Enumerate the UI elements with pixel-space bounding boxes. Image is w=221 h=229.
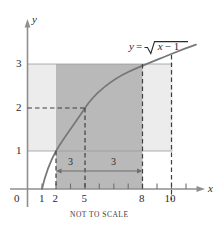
segment-label-left-3: 3 bbox=[68, 157, 73, 167]
segment-label-right-3: 3 bbox=[111, 157, 116, 167]
x-tick-label-0: 0 bbox=[14, 193, 20, 204]
equation-equals: = bbox=[134, 40, 144, 52]
x-axis-arrowhead bbox=[197, 186, 206, 192]
x-tick-label-10: 10 bbox=[165, 193, 176, 204]
figure-caption: NOT TO SCALE bbox=[70, 211, 129, 219]
equation-minus-one: − 1 bbox=[163, 40, 179, 52]
y-axis-arrowhead bbox=[25, 19, 31, 28]
figure-graph-sqrt: y x 3 2 1 0 1 2 5 8 10 3 3 y= x− 1 NOT T… bbox=[0, 0, 221, 229]
y-tick-label-1: 1 bbox=[16, 145, 22, 156]
y-tick-label-3: 3 bbox=[16, 58, 22, 69]
curve-equation-label: y= x− 1 bbox=[129, 41, 213, 52]
x-tick-label-2: 2 bbox=[53, 193, 59, 204]
shaded-region-inner-band bbox=[56, 64, 143, 189]
y-tick-label-2: 2 bbox=[16, 102, 22, 113]
chart-canvas bbox=[0, 0, 221, 229]
x-tick-label-8: 8 bbox=[139, 193, 145, 204]
x-tick-label-1: 1 bbox=[39, 193, 45, 204]
x-tick-label-5: 5 bbox=[82, 193, 88, 204]
y-axis-label: y bbox=[32, 14, 37, 25]
x-axis-label: x bbox=[208, 183, 213, 194]
